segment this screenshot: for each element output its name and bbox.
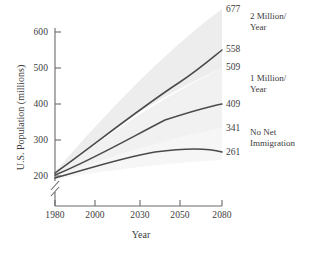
y-axis-ticks bbox=[55, 32, 61, 176]
series-annotation-no-net-immigration-line2: Immigration bbox=[250, 138, 295, 149]
band-edge-label-509: 509 bbox=[226, 62, 250, 72]
x-tick-label-2050: 2050 bbox=[163, 210, 197, 220]
population-projection-chart: 600 500 400 300 200 1980 2000 2030 2050 … bbox=[0, 0, 314, 253]
x-axis-ticks bbox=[55, 200, 222, 206]
series-annotation-no-net-immigration-line1: No Net bbox=[250, 127, 295, 138]
x-tick-label-1980: 1980 bbox=[38, 210, 72, 220]
endpoint-label-558: 558 bbox=[226, 44, 250, 54]
series-annotation-2-million-line1: 2 Million/ bbox=[250, 11, 286, 22]
x-tick-label-2080: 2080 bbox=[205, 210, 239, 220]
series-annotation-1-million: 1 Million/ Year bbox=[250, 73, 286, 94]
band-edge-label-677: 677 bbox=[226, 4, 250, 14]
series-annotation-no-net-immigration: No Net Immigration bbox=[250, 127, 295, 148]
x-tick-label-2030: 2030 bbox=[123, 210, 157, 220]
y-axis-title: U.S. Population (millions) bbox=[15, 43, 26, 193]
series-annotation-2-million: 2 Million/ Year bbox=[250, 11, 286, 32]
endpoint-label-409: 409 bbox=[226, 99, 250, 109]
series-annotation-1-million-line1: 1 Million/ bbox=[250, 73, 286, 84]
band-edge-label-341: 341 bbox=[226, 123, 250, 133]
endpoint-label-261: 261 bbox=[226, 147, 250, 157]
series-annotation-2-million-line2: Year bbox=[250, 22, 286, 33]
y-tick-label-600: 600 bbox=[18, 27, 48, 37]
series-annotation-1-million-line2: Year bbox=[250, 84, 286, 95]
x-axis-title: Year bbox=[106, 229, 176, 240]
x-tick-label-2000: 2000 bbox=[78, 210, 112, 220]
